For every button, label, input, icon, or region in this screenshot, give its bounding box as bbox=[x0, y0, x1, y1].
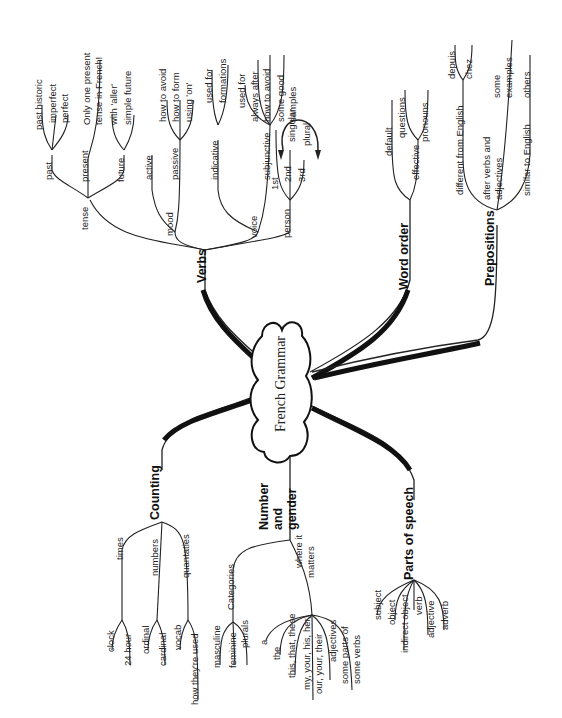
leaf-how-to-avoid-subj: how to avoid bbox=[262, 69, 272, 122]
leaf-1st: 1st bbox=[270, 177, 280, 190]
node-quantaties: quantaties bbox=[181, 534, 191, 578]
node-present: present bbox=[80, 150, 90, 182]
leaf-past-historic: past historic bbox=[34, 79, 44, 130]
branch-prepositions: Prepositions bbox=[484, 210, 497, 286]
node-past: past bbox=[44, 162, 54, 180]
node-future: future bbox=[116, 158, 126, 182]
leaf-adjective: adjective bbox=[426, 601, 436, 639]
leaf-adjectives: adjectives bbox=[328, 620, 338, 662]
leaf-how-to-avoid: how to avoid bbox=[158, 69, 168, 122]
node-passive: passive bbox=[170, 148, 180, 180]
node-where-it-2: matters bbox=[306, 546, 316, 578]
branch-verbs: Verbs bbox=[196, 249, 209, 283]
leaf-how-theyre-used: how they're used bbox=[190, 633, 200, 705]
leaf-subject: subject bbox=[373, 590, 383, 620]
node-numbers: numbers bbox=[150, 539, 160, 576]
leaf-my-your-2: our, your, their bbox=[314, 634, 324, 694]
node-indicative: indicative bbox=[210, 140, 220, 180]
leaf-some: some bbox=[492, 75, 502, 98]
leaf-examples: examples bbox=[504, 57, 514, 98]
leaf-my-your-1: my, your, his, her, bbox=[302, 616, 312, 690]
branch-parts-of-speech: Parts of speech bbox=[403, 487, 416, 580]
node-subjunctive: subjunctive bbox=[262, 132, 272, 180]
leaf-using-on: using 'on' bbox=[184, 82, 194, 122]
leaf-2nd: 2nd bbox=[283, 166, 293, 182]
branch-number-gender-2: and bbox=[272, 508, 285, 530]
branch-counting: Counting bbox=[149, 465, 162, 520]
node-active: active bbox=[144, 155, 154, 180]
leaf-this-that-these: this, that, these bbox=[287, 614, 297, 678]
leaf-the: the bbox=[272, 647, 282, 660]
mind-map-canvas: French Grammar Verbs Word order Preposit… bbox=[0, 0, 562, 718]
leaf-with-aller: with 'aller' bbox=[109, 84, 119, 125]
node-where-it-1: where it bbox=[294, 535, 304, 568]
leaf-some-verbs: some verbs bbox=[352, 635, 362, 684]
leaf-vocab: vocab bbox=[173, 625, 183, 650]
leaf-object: object bbox=[387, 600, 397, 625]
leaf-always-after: always after bbox=[250, 71, 260, 122]
leaf-indirect-object: indirect object bbox=[400, 594, 410, 653]
node-voice: voice bbox=[249, 216, 259, 238]
leaf-simple-future: simple future bbox=[123, 71, 133, 125]
node-times: times bbox=[115, 537, 125, 560]
leaf-masculine: masculine bbox=[212, 625, 222, 668]
leaf-imperfect: imperfect bbox=[48, 84, 58, 123]
node-tense: tense bbox=[80, 207, 90, 230]
leaf-questions: questions bbox=[397, 97, 407, 138]
leaf-cardinal: cardinal bbox=[158, 633, 168, 666]
leaf-how-to-form: how to form bbox=[171, 72, 181, 122]
leaf-a: a bbox=[259, 640, 269, 645]
leaf-24-hour: 24 hour bbox=[123, 634, 133, 666]
central-topic: French Grammar bbox=[276, 336, 286, 432]
label-singular: singular bbox=[287, 109, 297, 142]
leaf-plurals: plurals bbox=[240, 620, 250, 648]
node-mood: mood bbox=[165, 212, 175, 236]
leaf-used-for-indicative: used for bbox=[204, 69, 214, 103]
node-similar-to-english: similar to English bbox=[522, 124, 532, 196]
leaf-chez: chez bbox=[464, 59, 474, 79]
leaf-verb: verb bbox=[414, 597, 424, 615]
node-categories: Categories bbox=[226, 564, 236, 610]
leaf-perfect: perfect bbox=[60, 94, 70, 123]
node-different-from-english: different from English bbox=[455, 105, 465, 195]
leaf-some-parts-of: some parts of bbox=[340, 626, 350, 684]
branch-word-order: Word order bbox=[398, 223, 411, 290]
node-person: person bbox=[282, 209, 292, 238]
leaf-adverb: adverb bbox=[440, 601, 450, 630]
leaf-only-one-present-1: Only one present bbox=[82, 53, 92, 125]
leaf-clock: clock bbox=[106, 630, 116, 652]
leaf-pronouns: pronouns bbox=[420, 102, 430, 142]
leaf-depuis: depuis bbox=[447, 51, 457, 79]
leaf-ordinal: ordinal bbox=[141, 625, 151, 654]
leaf-others: others bbox=[522, 72, 532, 98]
leaf-some-good: some good bbox=[276, 75, 286, 122]
branch-number-gender-3: gender bbox=[286, 488, 299, 530]
leaf-used-for-subjunctive: used for bbox=[237, 74, 247, 108]
branch-number-gender-1: Number bbox=[258, 483, 271, 530]
label-plural: plural bbox=[302, 123, 312, 146]
leaf-only-one-present-2: tense in French! bbox=[94, 57, 104, 125]
leaf-feminine: feminine bbox=[228, 632, 238, 668]
node-default: default bbox=[384, 127, 394, 156]
node-effective: effective bbox=[411, 145, 421, 180]
node-after-verbs-2: adjectives bbox=[494, 158, 504, 200]
leaf-3rd: 3rd bbox=[297, 168, 307, 182]
leaf-formations: formations bbox=[218, 59, 228, 103]
node-after-verbs-1: after verbs and bbox=[482, 137, 492, 200]
